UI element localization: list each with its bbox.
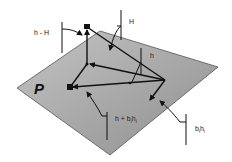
- apex-node: [84, 24, 90, 29]
- plane-label: P: [34, 80, 45, 97]
- label-bh: bihi: [195, 125, 205, 134]
- left-node: [67, 84, 73, 90]
- plane-p: [17, 31, 218, 155]
- h-node: [129, 82, 132, 85]
- mid-node: [86, 63, 89, 66]
- label-h: h: [150, 52, 154, 59]
- vector-plane-diagram: P h - H H h h + bihi: [0, 0, 232, 162]
- label-H: H: [129, 18, 134, 25]
- label-h-minus-H: h - H: [34, 29, 49, 36]
